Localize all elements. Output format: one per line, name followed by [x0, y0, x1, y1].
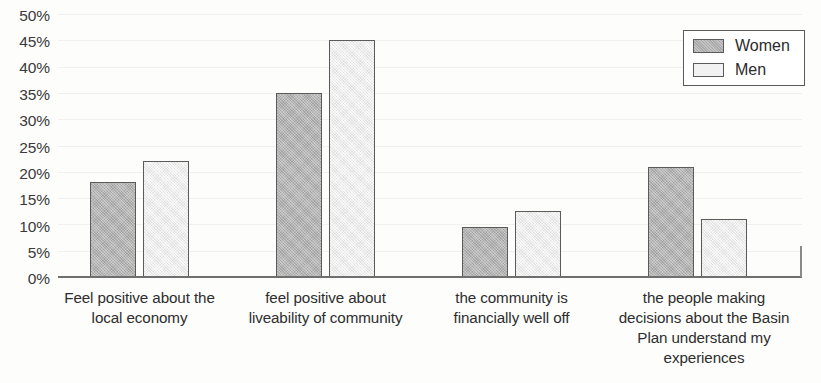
legend-item-men: Men [693, 62, 790, 78]
x-axis-label-line: Plan understand my [614, 328, 794, 348]
x-axis-label-1: feel positive about liveability of commu… [244, 288, 407, 328]
bar-men [515, 211, 561, 277]
x-axis-label-line: Feel positive about the [58, 288, 221, 308]
bar-group [268, 14, 383, 277]
x-axis-label-3: the people making decisions about the Ba… [614, 288, 794, 368]
y-axis-tick: 45% [0, 34, 50, 50]
bar-women [276, 93, 322, 277]
legend: Women Men [683, 30, 805, 86]
y-axis-tick: 30% [0, 113, 50, 129]
bar-group [454, 14, 569, 277]
y-axis-tick: 50% [0, 8, 50, 24]
bar-men [329, 40, 375, 277]
y-axis-tick: 35% [0, 87, 50, 103]
x-axis-label-2: the community is financially well off [430, 288, 593, 328]
y-axis-tick: 5% [0, 245, 50, 261]
bar-women [648, 167, 694, 277]
x-axis-label-0: Feel positive about the local economy [58, 288, 221, 328]
y-axis-tick: 40% [0, 60, 50, 76]
y-axis: 50% 45% 40% 35% 30% 25% 20% 15% 10% 5% 0… [0, 0, 58, 290]
y-axis-tick: 0% [0, 271, 50, 287]
bar-group [82, 14, 197, 277]
x-axis: Feel positive about the local economy fe… [58, 288, 802, 383]
x-axis-label-line: decisions about the Basin [614, 308, 794, 328]
bar-chart: 50% 45% 40% 35% 30% 25% 20% 15% 10% 5% 0… [0, 0, 821, 383]
legend-item-women: Women [693, 38, 790, 54]
legend-swatch-men-icon [693, 63, 724, 77]
x-axis-label-line: the people making [614, 288, 794, 308]
legend-swatch-women-icon [693, 39, 724, 53]
bar-men [701, 219, 747, 277]
x-axis-label-line: financially well off [430, 308, 593, 328]
bar-men [143, 161, 189, 277]
x-axis-label-line: local economy [58, 308, 221, 328]
y-axis-tick: 15% [0, 192, 50, 208]
bar-women [462, 227, 508, 277]
x-axis-line [58, 276, 802, 278]
right-axis-line [800, 246, 802, 277]
y-axis-tick: 20% [0, 166, 50, 182]
legend-label-women: Women [735, 38, 790, 54]
y-axis-tick: 10% [0, 219, 50, 235]
x-axis-label-line: liveability of community [244, 308, 407, 328]
bar-women [90, 182, 136, 277]
x-axis-label-line: feel positive about [244, 288, 407, 308]
x-axis-label-line: experiences [614, 348, 794, 368]
y-axis-tick: 25% [0, 140, 50, 156]
x-axis-label-line: the community is [430, 288, 593, 308]
legend-label-men: Men [735, 62, 766, 78]
